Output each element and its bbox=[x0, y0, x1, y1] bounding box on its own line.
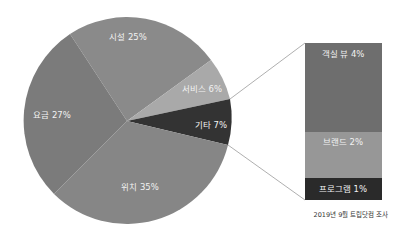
pie-label-location: 위치 35% bbox=[121, 182, 159, 192]
connector-line-top bbox=[230, 43, 305, 99]
pie-label-facility: 시설 25% bbox=[109, 32, 147, 42]
pie-chart: 시설 25% 서비스 6% 기타 7% 위치 35% 요금 27% bbox=[24, 17, 232, 224]
bar-label-program: 프로그램 1% bbox=[319, 184, 367, 194]
bar-label-room-view: 객실 뷰 4% bbox=[322, 49, 365, 59]
pie-label-other: 기타 7% bbox=[195, 120, 227, 130]
pie-label-service: 서비스 6% bbox=[182, 84, 222, 94]
chart-canvas: 시설 25% 서비스 6% 기타 7% 위치 35% 요금 27% 객실 뷰 4… bbox=[0, 0, 405, 242]
pie-label-price: 요금 27% bbox=[33, 110, 71, 120]
source-caption: 2019년 9월 트립닷컴 조사 bbox=[301, 209, 401, 219]
stacked-bar: 객실 뷰 4% 브랜드 2% 프로그램 1% bbox=[305, 43, 382, 200]
connector-line-bottom bbox=[228, 145, 305, 200]
bar-label-brand: 브랜드 2% bbox=[323, 137, 363, 147]
